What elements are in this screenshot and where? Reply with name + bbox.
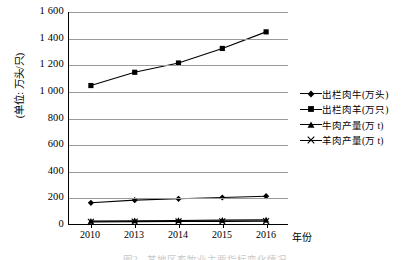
gridline [69,198,288,199]
y-tick-1200: 1 200 [39,58,64,69]
y-axis-tick-labels: 1 6001 4001 2001 0008006004002000 [18,10,64,226]
gridline [69,12,288,13]
figure-caption: 图2 某地区畜牧业主要指标变化情况 [60,252,350,260]
chart-legend: 出栏肉牛(万头)出栏肉羊(万只)牛肉产量(万 t)羊肉产量(万 t) [300,86,409,148]
legend-label: 牛肉产量(万 t) [322,118,383,132]
x-tick-2013: 2013 [124,229,144,240]
diamond-marker [300,88,322,99]
gridline [69,92,288,93]
x-tick-mark [91,224,92,228]
series-triangle [88,217,270,224]
gridline [69,65,288,66]
y-tick-1400: 1 400 [39,31,64,42]
legend-item-0: 出栏肉牛(万头) [300,86,409,102]
legend-label: 出栏肉羊(万只) [322,102,388,116]
gridline [69,172,288,173]
x-tick-2016: 2016 [256,229,276,240]
legend-item-1: 出栏肉羊(万只) [300,102,409,118]
gridline [69,39,288,40]
y-tick-0: 0 [59,218,64,229]
x-tick-mark [267,224,268,228]
legend-item-2: 牛肉产量(万 t) [300,117,409,133]
y-tick-1600: 1 600 [39,5,64,16]
y-tick-400: 400 [48,164,64,175]
x-axis-tick-labels: 20102013201420152016 [68,229,288,245]
x-tick-2010: 2010 [80,229,100,240]
legend-label: 羊肉产量(万 t) [322,133,383,147]
y-tick-200: 200 [48,191,64,202]
y-tick-1000: 1 000 [39,84,64,95]
x-axis-title: 年份 [292,229,312,244]
x-tick-2015: 2015 [212,229,232,240]
x-tick-mark [223,224,224,228]
y-tick-800: 800 [48,111,64,122]
y-tick-600: 600 [48,138,64,149]
square-marker [300,104,322,115]
x-tick-mark [135,224,136,228]
cross-marker [300,135,322,146]
x-tick-mark [179,224,180,228]
triangle-marker [300,119,322,130]
series-diamond [88,193,269,206]
legend-item-3: 羊肉产量(万 t) [300,133,409,149]
plot-area [68,12,288,225]
chart-figure: (单位: 万头/只) 1 6001 4001 2001 000800600400… [0,0,409,260]
legend-label: 出栏肉牛(万头) [322,87,388,101]
gridline [69,119,288,120]
x-tick-2014: 2014 [168,229,188,240]
gridline [69,145,288,146]
